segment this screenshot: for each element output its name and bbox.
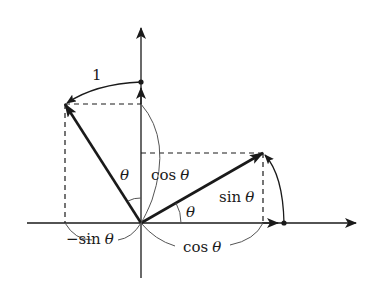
arc-e2-rotation — [67, 82, 141, 103]
label-sin-right: sinθ — [219, 188, 254, 206]
diagram-svg: 1 θ cosθ sinθ θ −sinθ cosθ — [0, 0, 375, 293]
label-theta-upper: θ — [120, 166, 129, 184]
label-theta-lower: θ — [186, 203, 195, 221]
label-cos-lower: cosθ — [183, 238, 221, 256]
arc-e1-rotation — [265, 155, 284, 223]
angle-arc-upper — [128, 198, 141, 201]
brace-cos-lower-right — [230, 223, 263, 245]
rotated-e2-vector — [65, 104, 141, 223]
label-unit-length: 1 — [92, 66, 102, 84]
angle-arc-lower — [176, 203, 181, 223]
brace-cos-upper — [141, 104, 160, 223]
rotation-diagram: 1 θ cosθ sinθ θ −sinθ cosθ — [0, 0, 375, 293]
label-cos-upper: cosθ — [151, 166, 189, 184]
angle-arcs — [128, 198, 181, 223]
label-neg-sin: −sinθ — [66, 230, 114, 248]
brace-cos-lower-left — [141, 223, 175, 246]
brace-neg-sin-right — [118, 223, 141, 240]
